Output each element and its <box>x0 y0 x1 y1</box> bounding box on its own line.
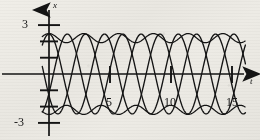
x-tick-label-15: 15 <box>226 96 238 108</box>
figure-canvas: 3 -3 5 10 15 x t <box>0 0 260 140</box>
x-tick-label-10: 10 <box>164 96 176 108</box>
y-axis-label: x <box>53 1 57 10</box>
x-axis-label: t <box>250 77 253 86</box>
plot-svg <box>0 0 260 140</box>
y-tick-label-3: 3 <box>22 18 28 30</box>
x-tick-label-5: 5 <box>106 96 112 108</box>
y-tick-label-neg3: -3 <box>14 116 24 128</box>
axis-lines <box>2 10 244 136</box>
